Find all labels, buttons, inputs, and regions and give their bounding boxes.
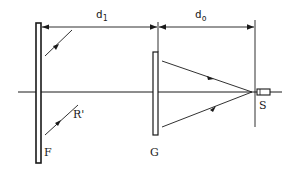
plate-g bbox=[153, 52, 158, 135]
source-s bbox=[257, 89, 270, 95]
g-label: G bbox=[150, 146, 159, 159]
d1-label: d1 bbox=[96, 8, 108, 23]
incident-ray-upper-f bbox=[45, 30, 72, 56]
s-label: S bbox=[259, 99, 267, 112]
d0-label: do bbox=[195, 8, 207, 23]
plate-f bbox=[36, 23, 41, 163]
optical-diagram: d1 do R' F G S bbox=[0, 0, 294, 174]
ray-s-to-g-lower bbox=[162, 92, 252, 127]
r-prime-label: R' bbox=[73, 108, 84, 121]
f-label: F bbox=[44, 146, 52, 159]
ray-s-to-g-upper bbox=[162, 61, 252, 92]
ray-arrow-s-g-upper bbox=[207, 76, 214, 80]
